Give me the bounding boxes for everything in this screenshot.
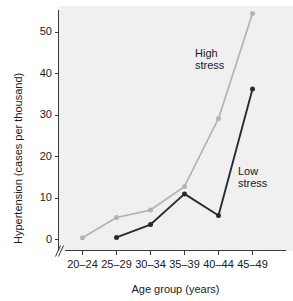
data-point-high-stress-5: [250, 11, 255, 16]
low-stress-label-line2: stress: [238, 177, 267, 189]
y-tick-label-2: 20: [28, 150, 52, 162]
data-point-high-stress-1: [114, 215, 119, 220]
high-stress-label-line2: stress: [195, 59, 224, 71]
series-annotation-high-stress: High stress: [195, 47, 224, 71]
data-point-low-stress-2: [182, 191, 187, 196]
y-tick-label-3: 30: [28, 108, 52, 120]
data-point-high-stress-0: [80, 235, 85, 240]
y-tick-label-5: 50: [28, 25, 52, 37]
y-tick-label-1: 10: [28, 191, 52, 203]
y-tick-label-4: 40: [28, 67, 52, 79]
data-point-low-stress-4: [250, 87, 255, 92]
data-point-high-stress-3: [182, 184, 187, 189]
data-point-high-stress-4: [216, 116, 221, 121]
data-point-low-stress-3: [216, 213, 221, 218]
x-axis-title: Age group (years): [58, 283, 293, 295]
hypertension-line-chart: Hypertension (cases per thousand) Age gr…: [0, 0, 293, 301]
high-stress-label-line1: High: [195, 47, 224, 59]
low-stress-label-line1: Low: [238, 165, 267, 177]
data-series-group: [80, 11, 255, 240]
data-point-high-stress-2: [148, 208, 153, 213]
x-tick-label-5: 45–49: [233, 258, 273, 270]
data-point-low-stress-1: [148, 222, 153, 227]
axes-group: [55, 10, 287, 257]
series-line-low-stress: [117, 89, 253, 237]
data-point-low-stress-0: [114, 235, 119, 240]
series-line-high-stress: [83, 14, 253, 238]
series-annotation-low-stress: Low stress: [238, 165, 267, 189]
y-tick-label-0: 0: [28, 233, 52, 245]
y-axis-title: Hypertension (cases per thousand): [12, 73, 24, 244]
